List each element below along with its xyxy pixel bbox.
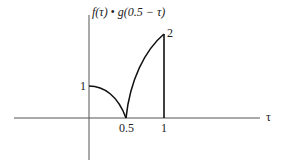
- x-axis-label: τ: [266, 111, 271, 123]
- value-label-2: 2: [167, 27, 173, 39]
- value-label-1: 1: [80, 80, 86, 92]
- y-axis-label: f(τ) • g(0.5 − τ): [92, 6, 165, 18]
- decay-curve: [89, 86, 126, 118]
- rise-curve: [126, 34, 164, 118]
- tick-label-0.5: 0.5: [119, 122, 134, 134]
- convolution-plot: f(τ) • g(0.5 − τ) τ 0.5 1 1 2: [0, 0, 283, 162]
- plot-canvas: [0, 0, 283, 162]
- tick-label-1: 1: [161, 122, 167, 134]
